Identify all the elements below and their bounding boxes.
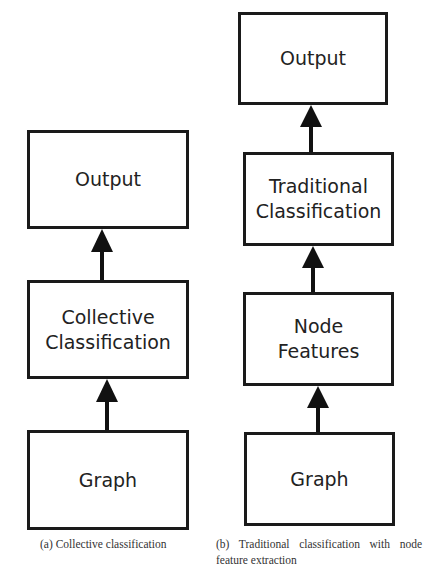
arrow-a-collective-to-output <box>91 229 113 280</box>
box-a-output: Output <box>27 130 189 229</box>
arrow-a-graph-to-collective <box>96 379 118 431</box>
box-a-graph-label: Graph <box>79 468 137 493</box>
box-b-features-label: Node Features <box>278 314 360 363</box>
box-b-graph: Graph <box>244 432 395 526</box>
box-b-node-features: Node Features <box>243 292 394 386</box>
box-a-graph: Graph <box>27 430 189 530</box>
box-a-collective-classification: Collective Classification <box>27 280 189 379</box>
box-b-graph-label: Graph <box>290 467 348 492</box>
arrow-b-graph-to-features <box>307 386 329 434</box>
arrow-b-features-to-traditional <box>302 246 324 294</box>
arrow-b-traditional-to-output <box>300 105 322 154</box>
caption-b: (b) Traditional classification with node… <box>216 537 422 568</box>
box-b-output-label: Output <box>280 46 346 71</box>
box-b-traditional-classification: Traditional Classification <box>243 152 394 246</box>
box-b-output: Output <box>238 12 388 105</box>
box-a-collective-label: Collective Classification <box>45 305 171 354</box>
box-b-traditional-label: Traditional Classification <box>256 174 382 223</box>
caption-a: (a) Collective classification <box>40 537 210 553</box>
box-a-output-label: Output <box>75 167 141 192</box>
